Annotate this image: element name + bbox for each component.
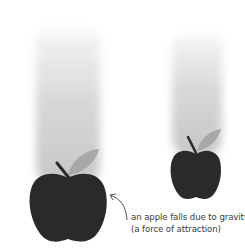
caption-line-1: an apple falls due to gravity: [131, 212, 245, 224]
apple-body: [171, 151, 221, 199]
apple-body: [30, 174, 107, 242]
caption: an apple falls due to gravity (a force o…: [131, 212, 245, 235]
caption-line-2: (a force of attraction): [131, 224, 245, 236]
pointer-arrow: [110, 194, 127, 220]
